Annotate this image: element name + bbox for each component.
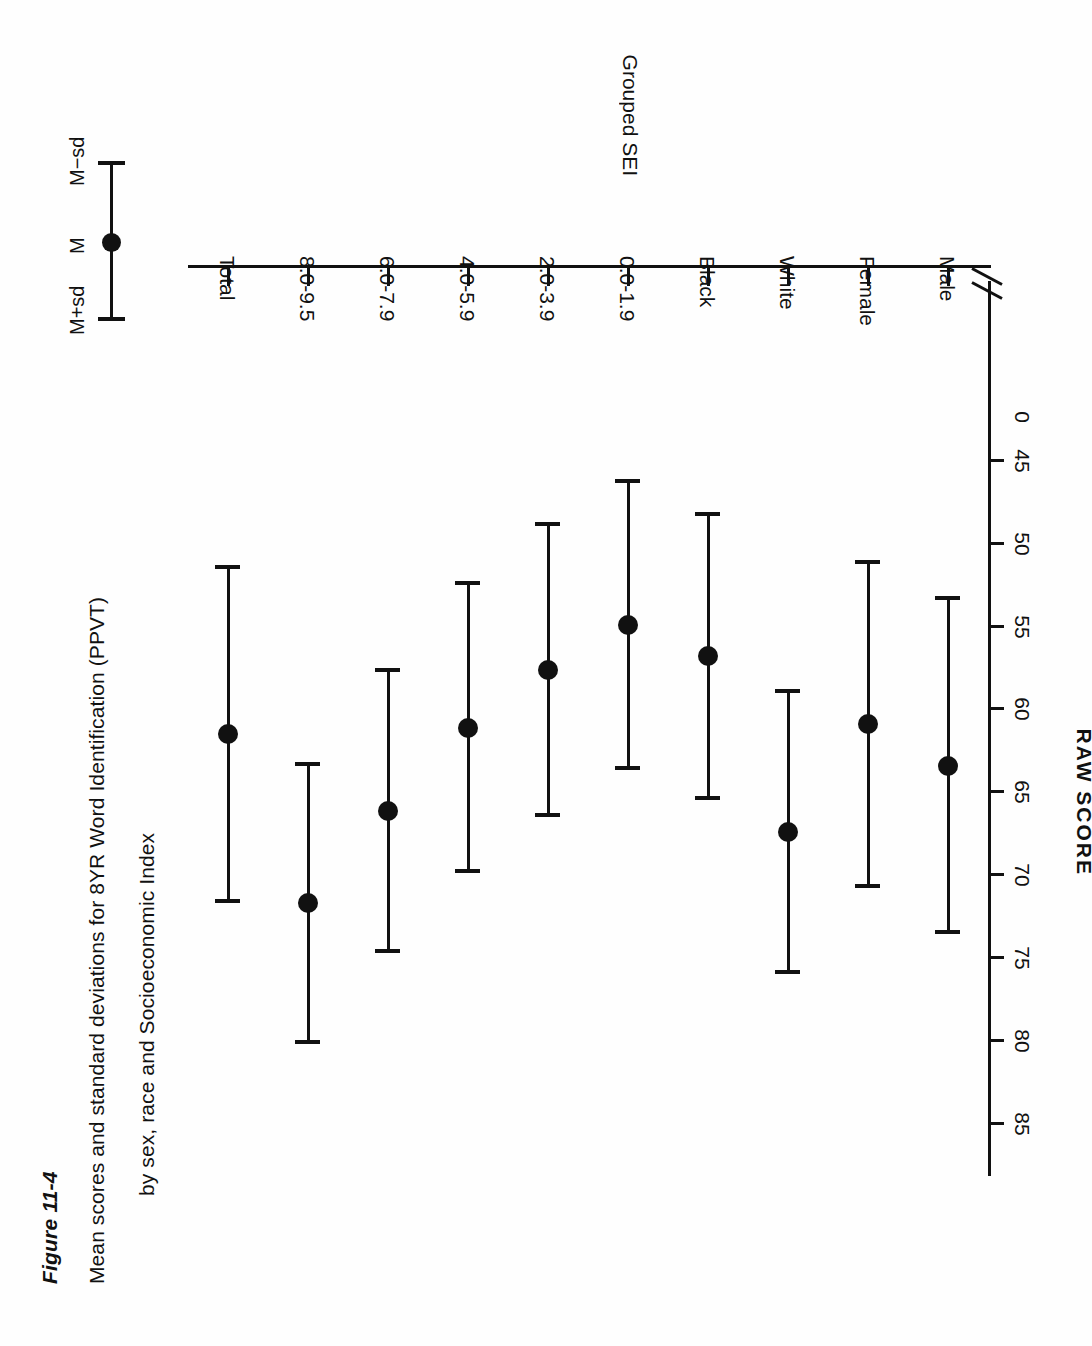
value-tick: [989, 956, 1004, 959]
error-bar-cap-upper: [295, 1040, 320, 1044]
value-tick: [989, 542, 1004, 545]
plot-area: RAW SCORE Grouped SEI 858075706560555045…: [188, 126, 988, 1176]
category-tick-label: 2.0-3.9: [535, 256, 559, 321]
mean-marker: [538, 660, 558, 680]
error-bar-cap-upper: [775, 970, 800, 974]
category-tick-label: Female: [855, 256, 879, 326]
mean-marker: [698, 646, 718, 666]
error-bar-cap-lower: [375, 668, 400, 672]
error-bar-cap-lower: [615, 479, 640, 483]
error-bar-cap-upper: [695, 796, 720, 800]
category-axis-title: Grouped SEI: [618, 55, 642, 176]
error-bar-cap-lower: [535, 522, 560, 526]
category-tick-label: Black: [695, 256, 719, 307]
value-tick-label: 80: [1010, 1019, 1034, 1063]
category-tick-label: 4.0-5.9: [455, 256, 479, 321]
value-tick-label: 45: [1010, 439, 1034, 483]
value-tick-label: 75: [1010, 936, 1034, 980]
value-tick: [989, 1122, 1004, 1125]
legend-label-upper: M+sd: [66, 286, 89, 335]
error-bar-cap-lower: [215, 565, 240, 569]
error-bar-cap-upper: [855, 884, 880, 888]
mean-marker: [458, 718, 478, 738]
error-bar-cap-upper: [935, 930, 960, 934]
value-tick: [989, 625, 1004, 628]
axis-origin-stub: [988, 265, 991, 268]
error-bar-cap-lower: [855, 560, 880, 564]
error-bar-cap-upper: [535, 813, 560, 817]
figure-caption-line-1: Mean scores and standard deviations for …: [85, 597, 109, 1284]
error-bar-cap-upper: [455, 869, 480, 873]
value-tick: [989, 873, 1004, 876]
category-tick-label: White: [775, 256, 799, 310]
error-bar-cap-lower: [295, 762, 320, 766]
value-axis-title: RAW SCORE: [1072, 728, 1092, 876]
legend-label-mean: M: [66, 237, 89, 254]
legend-label-lower: M−sd: [66, 137, 89, 186]
category-tick-label: Male: [935, 256, 959, 302]
mean-marker: [938, 756, 958, 776]
mean-marker: [378, 801, 398, 821]
value-tick-label: 50: [1010, 522, 1034, 566]
category-tick-label: 6.0-7.9: [375, 256, 399, 321]
value-tick: [989, 708, 1004, 711]
figure-caption-line-2: by sex, race and Socioeconomic Index: [135, 833, 159, 1196]
error-bar-cap-upper: [615, 766, 640, 770]
mean-marker: [298, 894, 318, 914]
category-tick-label: 8.0-9.5: [295, 256, 319, 321]
category-tick-label: 0.0-1.9: [615, 256, 639, 321]
error-bar-cap-upper: [375, 949, 400, 953]
legend: M+sd M M−sd: [48, 96, 138, 326]
error-bar-cap-lower: [775, 689, 800, 693]
value-tick-label: 60: [1010, 688, 1034, 732]
error-bar-cap-lower: [935, 596, 960, 600]
mean-marker: [778, 822, 798, 842]
value-tick: [989, 459, 1004, 462]
value-tick-label: 85: [1010, 1102, 1034, 1146]
legend-mean-marker: [102, 233, 121, 252]
error-bar-cap-lower: [695, 512, 720, 516]
figure-number: Figure 11-4: [38, 1171, 62, 1284]
error-bar-cap-upper: [215, 899, 240, 903]
value-tick: [989, 1039, 1004, 1042]
axis-zero-label: 0: [1010, 395, 1034, 439]
value-tick: [989, 790, 1004, 793]
mean-marker: [218, 724, 238, 744]
legend-lower-cap: [98, 161, 125, 165]
mean-marker: [858, 714, 878, 734]
mean-marker: [618, 615, 638, 635]
figure-page: Figure 11-4 Mean scores and standard dev…: [0, 0, 1092, 1346]
category-tick-label: Total: [215, 256, 239, 300]
value-tick-label: 70: [1010, 853, 1034, 897]
error-bar-cap-lower: [455, 582, 480, 586]
value-tick-label: 65: [1010, 770, 1034, 814]
value-tick-label: 55: [1010, 605, 1034, 649]
